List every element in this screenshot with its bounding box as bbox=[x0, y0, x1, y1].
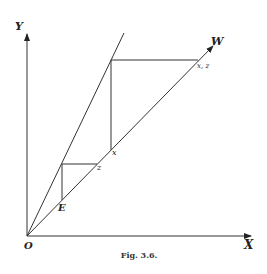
diagonal-ray-w bbox=[27, 46, 213, 236]
z-point-label: z bbox=[96, 163, 102, 172]
origin-label: O bbox=[24, 240, 33, 251]
y-axis-label: Y bbox=[15, 20, 24, 33]
figure-caption: Fig. 3.6. bbox=[121, 250, 158, 260]
x-axis-label: X bbox=[243, 238, 254, 252]
x-point-label: x bbox=[112, 148, 117, 157]
diagram-figure: Y X O W x, z x z E Fig. 3.6. bbox=[0, 0, 267, 274]
e-point-label: E bbox=[57, 202, 66, 213]
w-label: W bbox=[211, 35, 225, 48]
steep-ray bbox=[27, 33, 124, 236]
xz-label: x, z bbox=[197, 62, 209, 70]
